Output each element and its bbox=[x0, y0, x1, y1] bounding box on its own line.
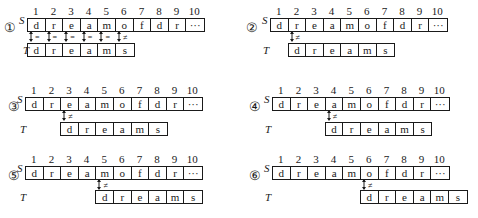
string-s-label: S bbox=[262, 15, 268, 26]
string-s-cell: ··· bbox=[431, 167, 449, 179]
pattern-t-cell: r bbox=[343, 123, 361, 135]
string-s-cell: d bbox=[273, 167, 291, 179]
double-arrow-icon bbox=[47, 31, 51, 42]
position-number: 6 bbox=[358, 6, 376, 17]
string-t-label: T bbox=[20, 192, 26, 203]
string-s-label: S bbox=[17, 163, 23, 174]
pattern-t-cell: r bbox=[306, 44, 324, 56]
position-number: 4 bbox=[78, 154, 96, 165]
position-number: 9 bbox=[166, 85, 184, 96]
position-number: 10 bbox=[430, 154, 448, 165]
string-s-cell: a bbox=[79, 98, 97, 110]
position-number: 8 bbox=[395, 85, 413, 96]
string-s-row: dreamofdr··· bbox=[272, 97, 450, 111]
string-s-row: dreamofdr··· bbox=[25, 97, 203, 111]
position-number: 3 bbox=[62, 6, 80, 17]
position-number: 9 bbox=[413, 85, 431, 96]
pattern-t-cell: d bbox=[326, 123, 344, 135]
pattern-t-cell: r bbox=[46, 44, 64, 56]
string-s-label: S bbox=[264, 94, 270, 105]
position-number: 7 bbox=[133, 6, 151, 17]
position-number: 2 bbox=[43, 85, 61, 96]
string-s-cell: m bbox=[343, 167, 361, 179]
position-number: 2 bbox=[290, 154, 308, 165]
not-equal-sign: ≠ bbox=[103, 182, 107, 190]
string-s-cell: d bbox=[273, 98, 291, 110]
string-s-cell: m bbox=[96, 167, 114, 179]
string-s-cell: f bbox=[132, 98, 150, 110]
string-s-cell: r bbox=[289, 19, 307, 31]
pattern-t-cell: d bbox=[96, 191, 114, 203]
pattern-t-cell: e bbox=[396, 191, 414, 203]
equal-sign: = bbox=[35, 34, 40, 42]
position-number: 9 bbox=[413, 154, 431, 165]
pattern-t-cell: a bbox=[81, 44, 99, 56]
string-s-cell: d bbox=[396, 98, 414, 110]
panel-4: ④12345678910Sdreamofdr···Tdreams≠ bbox=[240, 85, 478, 155]
string-s-row: dreamofdr··· bbox=[272, 166, 450, 180]
pattern-t-row: dreams bbox=[288, 43, 396, 57]
pattern-t-cell: s bbox=[449, 191, 467, 203]
string-s-cell: m bbox=[341, 19, 359, 31]
position-number: 8 bbox=[395, 154, 413, 165]
string-s-cell: f bbox=[377, 19, 395, 31]
position-number: 7 bbox=[378, 85, 396, 96]
double-arrow-icon bbox=[99, 31, 103, 42]
equal-sign: = bbox=[88, 34, 93, 42]
string-s-cell: r bbox=[291, 98, 309, 110]
string-s-cell: r bbox=[291, 167, 309, 179]
position-number: 10 bbox=[183, 85, 201, 96]
string-s-cell: o bbox=[116, 19, 134, 31]
not-equal-sign: ≠ bbox=[368, 182, 372, 190]
string-t-label: T bbox=[263, 45, 269, 56]
pattern-t-cell: a bbox=[379, 123, 397, 135]
string-s-label: S bbox=[19, 15, 25, 26]
string-s-cell: ··· bbox=[431, 98, 449, 110]
string-s-cell: o bbox=[361, 98, 379, 110]
pattern-t-cell: m bbox=[431, 191, 449, 203]
pattern-t-cell: s bbox=[414, 123, 432, 135]
string-s-cell: o bbox=[114, 167, 132, 179]
position-number: 7 bbox=[131, 85, 149, 96]
string-s-cell: ··· bbox=[429, 19, 447, 31]
position-number: 5 bbox=[340, 6, 358, 17]
pattern-t-cell: e bbox=[63, 44, 81, 56]
position-number: 4 bbox=[323, 6, 341, 17]
position-number: 4 bbox=[325, 85, 343, 96]
position-number: 2 bbox=[43, 154, 61, 165]
position-number: 2 bbox=[288, 6, 306, 17]
position-number: 8 bbox=[148, 85, 166, 96]
position-number: 6 bbox=[115, 6, 133, 17]
double-arrow-icon bbox=[29, 31, 33, 42]
string-s-cell: ··· bbox=[184, 98, 202, 110]
string-s-cell: f bbox=[379, 167, 397, 179]
panel-1: ①12345678910Sdreamofdr···Tdreams=====≠ bbox=[0, 6, 238, 76]
string-s-cell: e bbox=[63, 19, 81, 31]
string-s-cell: e bbox=[308, 167, 326, 179]
equal-sign: = bbox=[70, 34, 75, 42]
pattern-t-cell: r bbox=[114, 191, 132, 203]
pattern-t-cell: a bbox=[149, 191, 167, 203]
string-s-cell: r bbox=[167, 98, 185, 110]
position-number: 4 bbox=[80, 6, 98, 17]
pattern-t-cell: r bbox=[79, 123, 97, 135]
pattern-t-cell: e bbox=[324, 44, 342, 56]
position-number: 10 bbox=[183, 154, 201, 165]
double-arrow-icon bbox=[64, 31, 68, 42]
pattern-t-cell: s bbox=[116, 44, 134, 56]
string-s-cell: d bbox=[271, 19, 289, 31]
position-number: 10 bbox=[185, 6, 203, 17]
position-number: 1 bbox=[272, 154, 290, 165]
pattern-t-cell: e bbox=[96, 123, 114, 135]
panel-3: ③12345678910Sdreamofdr···Tdreams≠ bbox=[0, 85, 238, 155]
string-s-cell: o bbox=[114, 98, 132, 110]
string-s-cell: d bbox=[28, 19, 46, 31]
pattern-t-cell: m bbox=[132, 123, 150, 135]
string-s-cell: r bbox=[44, 167, 62, 179]
position-number: 1 bbox=[25, 154, 43, 165]
string-s-cell: a bbox=[79, 167, 97, 179]
string-s-cell: ··· bbox=[184, 167, 202, 179]
string-s-cell: r bbox=[412, 19, 430, 31]
position-number: 5 bbox=[97, 6, 115, 17]
equal-sign: = bbox=[105, 34, 110, 42]
